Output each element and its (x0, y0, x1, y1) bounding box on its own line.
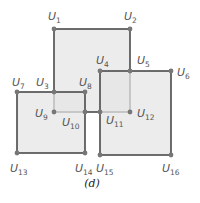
vertex-label-u1: U1 (48, 10, 61, 25)
vertex-u9 (52, 110, 57, 115)
vertex-label-u5: U5 (137, 54, 150, 69)
vertex-u1 (52, 27, 57, 32)
vertex-label-u13: U13 (10, 162, 28, 177)
vertex-u4 (98, 69, 103, 74)
vertex-u14 (83, 151, 88, 156)
vertex-label-u16: U16 (162, 162, 180, 177)
vertex-u11 (98, 110, 103, 115)
vertex-label-u14: U14 (75, 162, 93, 177)
vertex-u2 (128, 27, 133, 32)
vertex-u7 (15, 90, 20, 95)
vertex-label-u3: U3 (36, 76, 49, 91)
vertex-u6 (169, 69, 174, 74)
vertex-u15 (98, 153, 103, 158)
vertex-label-u6: U6 (177, 66, 190, 81)
rectangles-layer (17, 29, 171, 155)
vertex-label-u2: U2 (124, 10, 137, 25)
right-square (100, 71, 171, 155)
vertex-u12 (128, 110, 133, 115)
vertex-label-u15: U15 (96, 162, 114, 177)
vertex-u13 (15, 151, 20, 156)
figure-caption: (d) (84, 177, 100, 190)
vertex-label-u7: U7 (12, 76, 25, 91)
vertex-u5 (128, 69, 133, 74)
vertex-u16 (169, 153, 174, 158)
vertex-u3 (52, 90, 57, 95)
rectangle-graph-diagram: U1U2U3U4U5U6U7U8U9U10U11U12U13U14U15U16 … (0, 0, 200, 203)
vertex-u10 (83, 110, 88, 115)
